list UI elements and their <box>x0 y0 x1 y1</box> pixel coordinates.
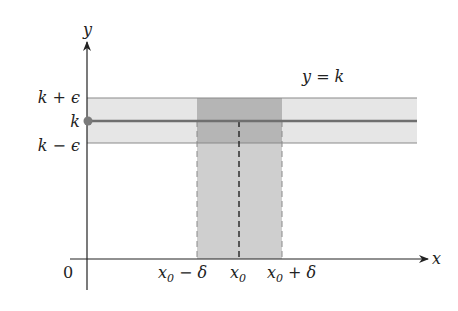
x0-label: x0 <box>230 263 246 285</box>
k-label: k <box>70 112 80 131</box>
origin-label: 0 <box>63 263 73 282</box>
lower-epsilon-label: k − ϵ <box>38 136 80 155</box>
epsilon-delta-diagram: y x 0 k + ϵ k k − ϵ y = k x0 − δ x0 x0 +… <box>0 0 458 311</box>
y-axis-label: y <box>82 20 93 39</box>
y-intercept-point <box>84 117 93 126</box>
x0-minus-delta-label: x0 − δ <box>158 263 207 285</box>
x0-plus-delta-label: x0 + δ <box>267 263 316 285</box>
constant-line-label: y = k <box>301 67 344 86</box>
x-axis-label: x <box>432 249 441 268</box>
upper-epsilon-label: k + ϵ <box>38 88 80 107</box>
